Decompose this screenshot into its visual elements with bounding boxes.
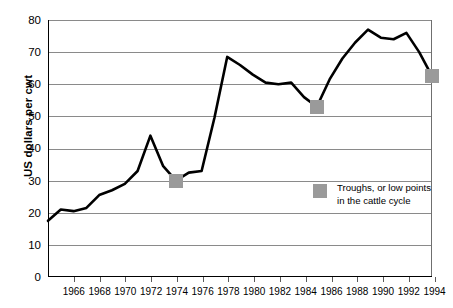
chart-container: US dollars per cwt 80 70 60 50 40 30 20 … <box>0 0 453 308</box>
trough-marker <box>310 100 324 114</box>
trough-marker <box>425 69 439 83</box>
legend-swatch-trough <box>313 184 327 198</box>
legend-label-line1: Troughs, or low points <box>337 182 453 195</box>
legend-label-line2: in the cattle cycle <box>337 195 453 208</box>
series-layer <box>0 0 453 308</box>
trough-marker <box>169 174 183 188</box>
legend-label-trough: Troughs, or low points in the cattle cyc… <box>337 182 453 207</box>
